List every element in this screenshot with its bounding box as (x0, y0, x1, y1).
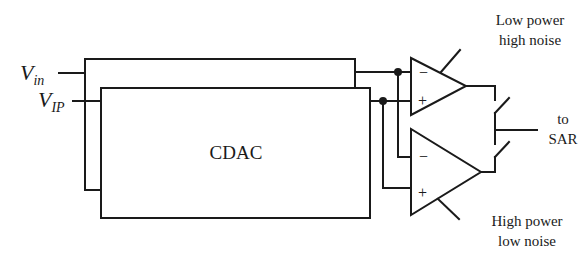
junction-dot-plus (379, 97, 387, 105)
svg-text:VIP: VIP (38, 87, 65, 115)
vip-label: VIP (38, 87, 65, 115)
comparator1-label-line2: high noise (499, 32, 561, 48)
junction-dot-minus (394, 68, 402, 76)
output-label-line1: to (557, 111, 569, 127)
switch1-icon (495, 98, 509, 113)
comparator1-label-leader (441, 50, 460, 72)
cdac-label: CDAC (210, 142, 263, 163)
svg-text:Vin: Vin (20, 60, 44, 88)
comparator1-output-wire (466, 86, 495, 100)
comparator-high-power (411, 129, 481, 215)
comparator2-label-line1: High power (491, 213, 562, 229)
comparator2-minus-sign: − (419, 148, 428, 165)
minus-branch-wire (398, 72, 411, 157)
comparator2-plus-sign: + (418, 184, 427, 201)
comparator1-minus-sign: − (419, 64, 428, 81)
output-label-line2: SAR (548, 131, 577, 147)
switch2-icon (495, 142, 509, 157)
comparator2-output-wire (481, 157, 495, 172)
vin-label: Vin (20, 60, 44, 88)
comparator2-label-leader (438, 199, 459, 219)
cdac-comparator-diagram: CDAC Vin VIP − + − + Low power high nois… (0, 0, 588, 272)
comparator1-plus-sign: + (418, 92, 427, 109)
comparator1-label-line1: Low power (496, 12, 565, 28)
comparator2-label-line2: low noise (498, 233, 556, 249)
